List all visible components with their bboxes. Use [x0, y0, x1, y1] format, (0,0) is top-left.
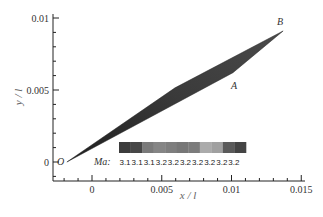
colorbar-swatch [188, 142, 200, 153]
colorbar-level-label: 3.2 [192, 158, 204, 167]
point-label-b: B [277, 16, 283, 27]
colorbar: Ma:3.13.13.13.23.23.23.23.23.23.2 [93, 142, 246, 167]
colorbar-title: Ma: [93, 156, 111, 167]
y-tick-label: 0.005 [27, 85, 50, 96]
colorbar-level-label: 3.1 [119, 158, 131, 167]
x-axis-title: x / l [179, 189, 197, 201]
y-axis-title: y / l [12, 89, 24, 107]
colorbar-level-label: 3.2 [204, 158, 216, 167]
colorbar-level-label: 3.2 [180, 158, 192, 167]
colorbar-swatch [165, 142, 177, 153]
colorbar-level-label: 3.1 [144, 158, 156, 167]
colorbar-level-label: 3.2 [216, 158, 228, 167]
colorbar-swatch [131, 142, 143, 153]
x-tick-label: 0.01 [223, 184, 241, 195]
x-tick-label: 0.005 [151, 184, 174, 195]
colorbar-swatch [154, 142, 166, 153]
chart: OAB Ma:3.13.13.13.23.23.23.23.23.23.2 00… [0, 0, 323, 217]
colorbar-level-label: 3.2 [228, 158, 240, 167]
colorbar-level-label: 3.1 [132, 158, 144, 167]
colorbar-level-label: 3.2 [156, 158, 168, 167]
colorbar-swatch [142, 142, 154, 153]
colorbar-swatch [211, 142, 223, 153]
colorbar-swatch [234, 142, 246, 153]
x-tick-label: 0 [90, 184, 95, 195]
colorbar-level-label: 3.2 [168, 158, 180, 167]
y-tick-label: 0 [44, 157, 49, 168]
colorbar-swatch [119, 142, 131, 153]
x-tick-label: 0.015 [290, 184, 313, 195]
colorbar-swatch [223, 142, 235, 153]
y-tick-label: 0.01 [32, 13, 50, 24]
colorbar-swatch [200, 142, 212, 153]
colorbar-swatch [177, 142, 189, 153]
point-label-a: A [230, 80, 238, 91]
